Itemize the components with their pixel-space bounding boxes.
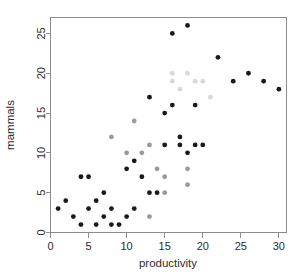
data-point <box>147 95 152 100</box>
x-tick-label: 0 <box>47 240 53 252</box>
plot-canvas: 051015202530 0510152025 productivity mam… <box>0 0 302 277</box>
data-point <box>109 206 114 211</box>
data-point <box>170 103 175 108</box>
data-point <box>124 166 129 171</box>
x-tick-label: 5 <box>86 240 92 252</box>
y-tick-label: 0 <box>35 229 47 235</box>
data-point <box>56 206 61 211</box>
data-point <box>109 135 114 140</box>
data-point <box>231 79 236 84</box>
x-tick-label: 10 <box>121 240 133 252</box>
data-point <box>94 222 99 227</box>
data-point <box>216 55 221 60</box>
data-point <box>124 214 129 219</box>
y-tick-label: 10 <box>35 147 47 159</box>
data-point <box>155 190 160 195</box>
data-point <box>94 198 99 203</box>
data-point <box>124 150 129 155</box>
x-tick-label: 25 <box>235 240 247 252</box>
data-point <box>178 135 183 140</box>
x-axis-title: productivity <box>139 257 197 269</box>
data-point <box>63 198 68 203</box>
data-point <box>200 79 205 84</box>
data-point <box>185 71 190 76</box>
y-tick-label: 5 <box>35 190 47 196</box>
data-point <box>193 79 198 84</box>
data-point <box>185 150 190 155</box>
y-axis-title: mammals <box>4 100 16 150</box>
data-point <box>147 143 152 148</box>
data-point <box>185 23 190 28</box>
data-point <box>193 143 198 148</box>
data-point <box>170 79 175 84</box>
data-point <box>147 190 152 195</box>
y-tick-label: 25 <box>35 27 47 39</box>
data-point <box>101 190 106 195</box>
data-point <box>162 111 167 116</box>
data-point <box>276 87 281 92</box>
data-point <box>162 190 167 195</box>
data-point <box>139 150 144 155</box>
data-point <box>86 206 91 211</box>
data-point <box>185 166 190 171</box>
data-point <box>200 143 205 148</box>
data-point <box>170 71 175 76</box>
data-point <box>132 158 137 163</box>
data-point <box>261 79 266 84</box>
x-tick-label: 30 <box>273 240 285 252</box>
data-point <box>86 174 91 179</box>
data-point <box>79 222 84 227</box>
x-tick-label: 20 <box>197 240 209 252</box>
data-point <box>139 174 144 179</box>
data-point <box>71 214 76 219</box>
data-point <box>246 71 251 76</box>
data-point <box>178 143 183 148</box>
data-point <box>208 95 213 100</box>
data-point <box>117 222 122 227</box>
x-tick-label: 15 <box>159 240 171 252</box>
data-point <box>155 166 160 171</box>
data-point <box>185 182 190 187</box>
data-point <box>178 87 183 92</box>
data-point <box>132 119 137 124</box>
y-tick-label: 15 <box>35 107 47 119</box>
data-point <box>109 222 114 227</box>
scatter-plot-figure: 051015202530 0510152025 productivity mam… <box>0 0 302 277</box>
data-point <box>193 103 198 108</box>
data-point <box>79 174 84 179</box>
data-point <box>170 31 175 36</box>
data-point <box>162 174 167 179</box>
y-tick-label: 20 <box>35 67 47 79</box>
data-point <box>101 214 106 219</box>
data-point <box>147 214 152 219</box>
data-point <box>162 143 167 148</box>
data-point <box>132 206 137 211</box>
